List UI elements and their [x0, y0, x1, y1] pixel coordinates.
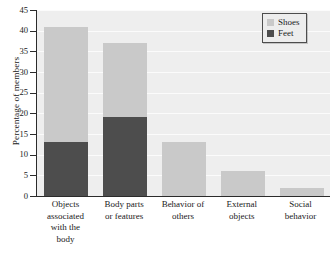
- y-axis-tick-label: 45: [0, 6, 28, 15]
- legend-swatch-icon: [267, 19, 274, 26]
- bar-segment: [44, 27, 88, 143]
- y-axis-tick: [30, 31, 36, 32]
- bar-group: [221, 171, 265, 196]
- y-axis-tick: [30, 113, 36, 114]
- legend-label: Shoes: [278, 17, 300, 28]
- y-axis-tick: [30, 51, 36, 52]
- bar-group: [280, 188, 324, 196]
- x-axis-line: [36, 196, 330, 197]
- y-axis-tick: [30, 93, 36, 94]
- y-axis-tick-label: 5: [0, 171, 28, 180]
- y-axis-tick: [30, 72, 36, 73]
- legend: ShoesFeet: [262, 13, 307, 43]
- x-axis-label: Socialbehavior: [264, 199, 335, 222]
- y-axis-tick-label: 15: [0, 130, 28, 139]
- y-axis-tick-label: 25: [0, 88, 28, 97]
- legend-swatch-icon: [267, 30, 274, 37]
- bar-segment: [221, 171, 265, 196]
- bar-segment: [103, 43, 147, 117]
- y-axis-tick-label: 10: [0, 150, 28, 159]
- y-axis-tick-label: 40: [0, 26, 28, 35]
- bar-segment: [103, 117, 147, 196]
- legend-label: Feet: [278, 28, 294, 39]
- y-axis-tick: [30, 134, 36, 135]
- y-axis-tick-label: 20: [0, 109, 28, 118]
- y-axis-tick: [30, 175, 36, 176]
- y-axis-tick-label: 35: [0, 47, 28, 56]
- legend-item: Shoes: [267, 17, 300, 28]
- bar-group: [162, 142, 206, 196]
- bar-segment: [44, 142, 88, 196]
- bar-group: [103, 43, 147, 196]
- y-axis-tick-label: 0: [0, 192, 28, 201]
- bar-segment: [162, 142, 206, 196]
- bar-chart: Percentage of members 051015202530354045…: [0, 0, 335, 253]
- legend-item: Feet: [267, 28, 300, 39]
- y-axis-tick: [30, 196, 36, 197]
- y-axis-tick-label: 30: [0, 68, 28, 77]
- y-axis-tick: [30, 155, 36, 156]
- bar-group: [44, 27, 88, 196]
- bar-segment: [280, 188, 324, 196]
- y-axis-tick: [30, 10, 36, 11]
